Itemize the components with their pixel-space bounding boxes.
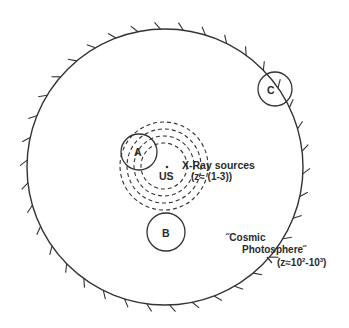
cosmic-label: ˝Cosmic (226, 233, 265, 243)
circle-label-c: C (267, 85, 275, 96)
tick-mark (27, 205, 32, 213)
photosphere-redshift-label: (z≈102-103) (277, 257, 326, 268)
tick-mark (108, 34, 116, 38)
redshift-prefix: (z≈10 (277, 257, 302, 268)
tick-mark (22, 183, 28, 190)
boundary-tick-marks (20, 22, 310, 311)
tick-mark (68, 59, 77, 61)
tick-mark (263, 61, 264, 70)
circle-c (258, 72, 292, 106)
tick-mark (20, 160, 27, 166)
observer-dot (166, 166, 169, 169)
circle-label-b: B (162, 228, 170, 239)
tick-mark (303, 168, 310, 174)
tick-mark (155, 22, 161, 29)
redshift-suffix: ) (323, 257, 326, 268)
tick-mark (253, 273, 262, 275)
tick-mark (84, 279, 85, 288)
tick-mark (131, 26, 138, 32)
tick-mark (235, 286, 244, 289)
redshift-mid: -10 (305, 257, 319, 268)
cosmic-photosphere-circle (27, 29, 303, 305)
photosphere-label: Photosphere˝ (242, 245, 306, 255)
tick-mark (50, 246, 52, 255)
tick-mark (298, 121, 303, 129)
tick-mark (278, 79, 280, 88)
circle-label-a: A (134, 147, 142, 158)
x-ray-sources-label: X-Ray sources (182, 160, 255, 171)
x-ray-shell (141, 143, 187, 189)
tick-mark (246, 46, 247, 55)
tick-mark (170, 305, 176, 312)
tick-mark (87, 45, 96, 48)
tick-mark (66, 264, 67, 273)
tick-mark (214, 296, 222, 300)
observer-label-us: US (159, 171, 174, 182)
tick-mark (290, 99, 294, 107)
tick-mark (302, 145, 308, 152)
tick-mark (192, 302, 199, 308)
diagram-canvas (0, 0, 349, 328)
x-ray-redshift-label: (z≈ (1-3)) (191, 172, 232, 182)
cosmic-photosphere-diagram: A B C US X-Ray sources (z≈ (1-3)) ˝Cosmi… (0, 0, 349, 328)
tick-mark (37, 227, 41, 235)
